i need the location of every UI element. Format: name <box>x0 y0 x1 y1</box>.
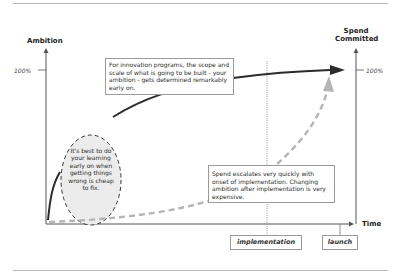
x-axis-arrow-icon <box>349 222 354 227</box>
left-axis-arrow-icon <box>44 48 49 53</box>
right-100-percent-label: 100% <box>366 67 383 74</box>
launch-phase-label: launch <box>322 235 358 250</box>
right-axis-arrow-icon <box>354 48 359 53</box>
learning-note: It's best to do your learning early on w… <box>66 147 116 191</box>
implementation-phase-label: implementation <box>230 235 302 250</box>
time-axis-label: Time <box>362 220 381 228</box>
left-100-percent-label: 100% <box>14 67 31 74</box>
ambition-axis-label: Ambition <box>27 37 63 45</box>
ambition-arrowhead-icon <box>330 65 345 75</box>
spend-arrowhead-icon <box>323 76 334 92</box>
ambition-curve <box>48 172 60 220</box>
ambition-note: For innovation programs, the scope and s… <box>105 58 234 95</box>
spend-committed-axis-label: Spend Committed <box>335 27 377 43</box>
spend-label-line1: Spend <box>335 27 377 35</box>
spend-note: Spend escalates very quickly with onset … <box>208 165 335 203</box>
spend-label-line2: Committed <box>335 35 377 43</box>
